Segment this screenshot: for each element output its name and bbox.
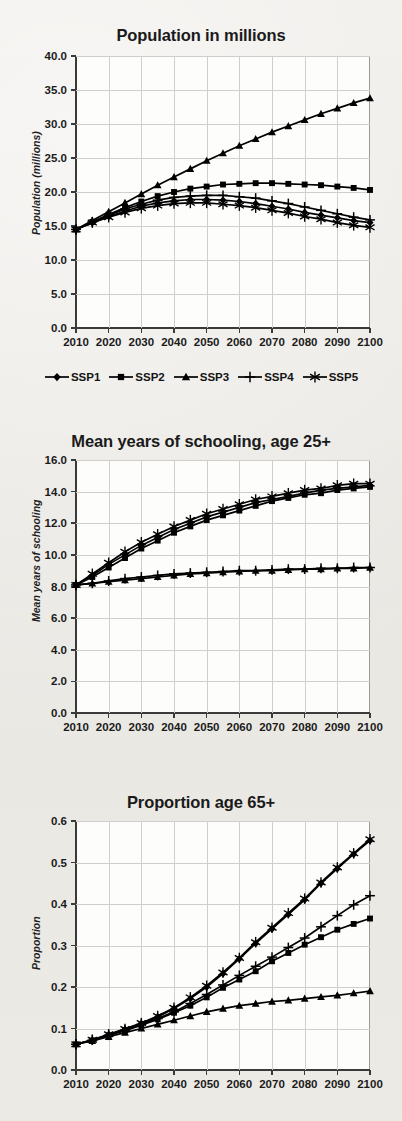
x-tick-mark [304,328,306,333]
y-tick-label: 6.0 [21,612,67,624]
y-tick-label: 8.0 [21,581,67,593]
legend-label: SSP2 [135,371,164,383]
diamond-icon [44,370,70,384]
x-tick-label: 2060 [221,336,257,348]
y-tick-label: 14.0 [21,486,67,498]
x-tick-label: 2080 [287,721,323,733]
y-tick-label: 5.0 [21,288,67,300]
triangle-icon [173,370,199,384]
legend-item-ssp3[interactable]: SSP3 [173,370,229,384]
x-tick-label: 2010 [58,1078,94,1090]
y-tick-label: 0.2 [21,981,67,993]
x-tick-label: 2100 [352,336,388,348]
chart-3-x-tick-labels: 2010202020302040205020602070208020902100 [0,1078,402,1094]
x-tick-mark [271,713,273,718]
x-tick-label: 2040 [156,721,192,733]
x-tick-mark [206,713,208,718]
legend-label: SSP1 [71,371,100,383]
series-ssp5 [71,834,374,1050]
legend-item-ssp4[interactable]: SSP4 [237,370,293,384]
legend-item-ssp2[interactable]: SSP2 [108,370,164,384]
y-tick-label: 0.0 [21,1064,67,1076]
x-tick-label: 2040 [156,1078,192,1090]
x-tick-mark [141,713,143,718]
chart-1-x-tick-labels: 2010202020302040205020602070208020902100 [0,336,402,352]
legend-label: SSP4 [264,371,293,383]
x-tick-mark [239,713,241,718]
y-tick-label: 0.0 [21,707,67,719]
asterisk-icon [302,370,328,384]
y-tick-label: 0.3 [21,940,67,952]
series-legend: SSP1SSP2SSP3SSP4SSP5 [0,370,402,384]
legend-item-ssp1[interactable]: SSP1 [44,370,100,384]
series-layer [76,460,370,713]
square-icon [108,370,134,384]
x-tick-label: 2030 [123,721,159,733]
x-tick-label: 2050 [189,336,225,348]
chart-1-plot-area: 0.05.010.015.020.025.030.035.040.0 [76,56,370,328]
legend-item-ssp5[interactable]: SSP5 [302,370,358,384]
y-tick-label: 20.0 [21,186,67,198]
x-tick-mark [369,1070,371,1075]
x-tick-mark [173,328,175,333]
x-tick-mark [75,328,77,333]
chart-proportion-65plus: Proportion age 65+ Proportion 0.00.10.20… [0,765,402,1121]
series-layer [76,821,370,1070]
x-tick-mark [206,1070,208,1075]
y-tick-label: 0.6 [21,815,67,827]
x-tick-label: 2060 [221,721,257,733]
x-tick-label: 2030 [123,336,159,348]
x-tick-mark [173,1070,175,1075]
x-tick-mark [271,328,273,333]
x-tick-label: 2100 [352,1078,388,1090]
series-layer [76,56,370,328]
plus-icon [237,370,263,384]
x-tick-mark [239,328,241,333]
y-tick-label: 0.0 [21,322,67,334]
x-tick-label: 2070 [254,721,290,733]
y-tick-label: 0.5 [21,857,67,869]
x-tick-mark [337,328,339,333]
y-tick-label: 40.0 [21,50,67,62]
x-tick-mark [369,328,371,333]
x-tick-label: 2050 [189,1078,225,1090]
x-tick-label: 2040 [156,336,192,348]
x-tick-mark [206,328,208,333]
x-tick-mark [141,1070,143,1075]
x-tick-mark [75,1070,77,1075]
chart-2-plot-area: 0.02.04.06.08.010.012.014.016.0 [76,460,370,713]
y-tick-label: 12.0 [21,517,67,529]
legend-label: SSP3 [200,371,229,383]
chart-1-title: Population in millions [0,26,402,45]
y-tick-label: 35.0 [21,84,67,96]
x-tick-label: 2020 [91,721,127,733]
y-tick-label: 30.0 [21,118,67,130]
x-tick-mark [239,1070,241,1075]
y-tick-label: 0.4 [21,898,67,910]
x-tick-mark [369,713,371,718]
x-tick-mark [271,1070,273,1075]
x-tick-mark [304,713,306,718]
x-tick-label: 2060 [221,1078,257,1090]
chart-schooling: Mean years of schooling, age 25+ Mean ye… [0,400,402,765]
y-tick-label: 2.0 [21,675,67,687]
chart-3-plot-area: 0.00.10.20.30.40.50.6 [76,821,370,1070]
x-tick-label: 2080 [287,1078,323,1090]
series-ssp1 [72,837,373,1049]
x-tick-label: 2090 [319,1078,355,1090]
x-tick-label: 2080 [287,336,323,348]
series-ssp3 [72,987,374,1047]
series-ssp4 [71,190,375,234]
x-tick-mark [304,1070,306,1075]
x-tick-label: 2070 [254,1078,290,1090]
chart-2-title: Mean years of schooling, age 25+ [0,432,402,451]
x-tick-mark [173,713,175,718]
chart-2-x-tick-labels: 2010202020302040205020602070208020902100 [0,721,402,737]
x-tick-label: 2020 [91,336,127,348]
x-tick-label: 2090 [319,721,355,733]
x-tick-mark [141,328,143,333]
x-tick-mark [337,1070,339,1075]
y-tick-label: 4.0 [21,644,67,656]
x-tick-label: 2070 [254,336,290,348]
y-tick-label: 10.0 [21,549,67,561]
